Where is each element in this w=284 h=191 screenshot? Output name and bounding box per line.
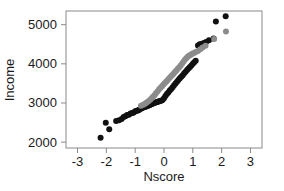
series-gray-series <box>138 29 229 109</box>
qq-plot-figure: -3-2-10123 2000300040005000 Nscore Incom… <box>0 0 284 191</box>
x-tick-label: -3 <box>72 154 84 169</box>
x-tick-label: -2 <box>101 154 113 169</box>
data-point <box>223 29 229 35</box>
y-axis-ticks <box>61 25 66 142</box>
scatter-plot-canvas: -3-2-10123 2000300040005000 Nscore Incom… <box>0 0 284 191</box>
x-axis-ticks <box>78 148 251 153</box>
data-point <box>203 43 209 49</box>
data-points <box>98 13 229 141</box>
y-axis-title: Income <box>2 59 17 102</box>
plot-border <box>66 11 262 148</box>
x-tick-label: 1 <box>189 154 196 169</box>
x-tick-label: 0 <box>160 154 167 169</box>
data-point <box>106 126 112 132</box>
series-black-series <box>98 13 229 141</box>
data-point <box>98 135 104 141</box>
plot-frame <box>66 11 262 148</box>
y-tick-label: 2000 <box>28 135 57 150</box>
data-point <box>211 36 217 42</box>
y-tick-label: 4000 <box>28 56 57 71</box>
x-tick-label: 2 <box>218 154 225 169</box>
x-tick-label: -1 <box>129 154 141 169</box>
y-tick-label: 3000 <box>28 95 57 110</box>
data-point <box>213 19 219 25</box>
x-axis-tick-labels: -3-2-10123 <box>72 154 254 169</box>
x-tick-label: 3 <box>247 154 254 169</box>
y-axis-tick-labels: 2000300040005000 <box>28 17 57 149</box>
data-point <box>193 58 199 64</box>
data-point <box>223 13 229 19</box>
y-tick-label: 5000 <box>28 17 57 32</box>
x-axis-title: Nscore <box>143 169 184 184</box>
data-point <box>103 120 109 126</box>
